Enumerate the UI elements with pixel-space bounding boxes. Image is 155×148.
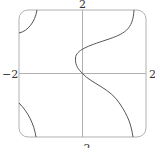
bottom-left-curve	[19, 103, 36, 137]
plot-canvas: 2 −2 2 −2	[0, 0, 155, 148]
label-left: −2	[2, 68, 18, 81]
label-top: 2	[79, 0, 86, 11]
label-right: 2	[149, 68, 155, 81]
label-bottom: −2	[74, 142, 90, 148]
top-left-curve	[19, 10, 37, 33]
